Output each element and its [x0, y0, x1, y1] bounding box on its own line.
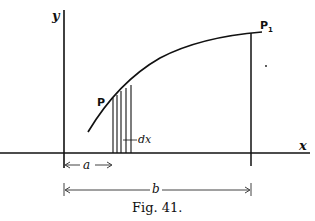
- curve: [88, 32, 262, 132]
- point-p1-label: P: [260, 19, 268, 32]
- b-label: b: [152, 182, 160, 196]
- figure-caption: Fig. 41.: [132, 200, 182, 215]
- dx-label: dx: [138, 133, 152, 146]
- figure-diagram: dx a b y x P P 1 Fig. 41.: [0, 0, 315, 221]
- y-axis-label: y: [51, 8, 61, 23]
- stray-dot: [265, 65, 267, 67]
- point-p-label: P: [97, 96, 105, 109]
- a-label: a: [83, 158, 90, 172]
- point-p1-subscript: 1: [268, 26, 273, 34]
- x-axis-label: x: [298, 138, 307, 153]
